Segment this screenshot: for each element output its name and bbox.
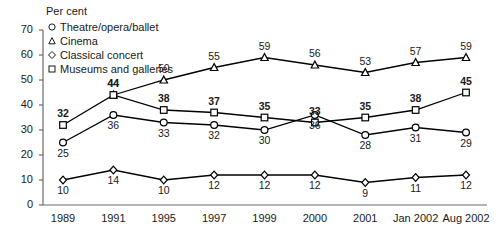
data-point-label: 36: [108, 119, 120, 131]
y-axis-tick-label: 20: [11, 148, 33, 160]
y-axis-tick-label: 60: [11, 48, 33, 60]
data-point-label: 25: [57, 147, 69, 159]
data-point-label: 12: [309, 179, 321, 191]
diamond-data-point: [311, 171, 318, 179]
diamond-data-point: [110, 166, 117, 174]
x-axis-tick-label: 2001: [353, 212, 377, 224]
plot-area: [0, 0, 498, 241]
square-data-point: [60, 122, 67, 129]
circle-data-point: [412, 124, 419, 131]
data-point-label: 12: [259, 179, 271, 191]
x-axis-tick-label: Aug 2002: [442, 212, 489, 224]
x-axis-tick-label: 2000: [303, 212, 327, 224]
y-axis-tick-label: 40: [11, 98, 33, 110]
x-axis-tick-label: 1991: [101, 212, 125, 224]
data-point-label: 45: [460, 75, 472, 87]
diamond-data-point: [261, 171, 268, 179]
data-point-label: 55: [208, 50, 220, 62]
y-axis-tick-label: 0: [11, 198, 33, 210]
data-point-label: 35: [259, 100, 271, 112]
circle-data-point: [160, 119, 167, 126]
data-point-label: 56: [309, 47, 321, 59]
y-axis-tick-label: 70: [11, 23, 33, 35]
data-point-label: 10: [57, 184, 69, 196]
square-data-point: [261, 114, 268, 121]
y-axis-tick-label: 30: [11, 123, 33, 135]
data-point-label: 10: [158, 184, 170, 196]
square-data-point: [211, 109, 218, 116]
data-point-label: 44: [108, 77, 120, 89]
data-point-label: 59: [460, 40, 472, 52]
y-axis-tick-label: 10: [11, 173, 33, 185]
data-point-label: 32: [208, 129, 220, 141]
data-point-label: 30: [259, 134, 271, 146]
data-point-label: 32: [57, 107, 69, 119]
data-point-label: 9: [362, 187, 368, 199]
data-point-label: 12: [460, 179, 472, 191]
triangle-data-point: [261, 54, 268, 61]
circle-data-point: [211, 122, 218, 129]
circle-data-point: [261, 127, 268, 134]
square-data-point: [160, 107, 167, 114]
diamond-data-point: [463, 171, 470, 179]
circle-data-point: [362, 132, 369, 139]
square-data-point: [412, 107, 419, 114]
data-point-label: 14: [108, 174, 120, 186]
circle-data-point: [463, 129, 470, 136]
data-point-label: 38: [410, 92, 422, 104]
data-point-label: 29: [460, 137, 472, 149]
data-point-label: 57: [410, 45, 422, 57]
data-point-label: 38: [158, 92, 170, 104]
data-point-label: 33: [309, 105, 321, 117]
y-axis-tick-label: 50: [11, 73, 33, 85]
data-point-label: 36: [309, 119, 321, 131]
square-data-point: [362, 114, 369, 121]
square-data-point: [110, 92, 117, 99]
data-point-label: 59: [259, 40, 271, 52]
data-point-label: 28: [359, 139, 371, 151]
diamond-data-point: [60, 176, 67, 184]
diamond-data-point: [362, 179, 369, 187]
data-point-label: 53: [359, 55, 371, 67]
triangle-data-point: [462, 54, 469, 61]
data-point-label: 50: [158, 62, 170, 74]
diamond-data-point: [211, 171, 218, 179]
data-point-label: 11: [410, 182, 421, 194]
circle-data-point: [110, 112, 117, 119]
data-point-label: 12: [208, 179, 220, 191]
data-point-label: 33: [158, 127, 170, 139]
x-axis-tick-label: 1989: [51, 212, 75, 224]
data-point-label: 35: [359, 100, 371, 112]
diamond-data-point: [160, 176, 167, 184]
data-point-label: 37: [208, 95, 220, 107]
x-axis-tick-label: 1995: [152, 212, 176, 224]
data-point-label: 31: [410, 132, 422, 144]
x-axis-tick-label: 1999: [252, 212, 276, 224]
x-axis-tick-label: 1997: [202, 212, 226, 224]
circle-data-point: [60, 139, 67, 146]
square-data-point: [463, 89, 470, 96]
x-axis-tick-label: Jan 2002: [393, 212, 438, 224]
chart-container: Per cent Theatre/opera/ballet Cinema Cla…: [0, 0, 498, 241]
diamond-data-point: [412, 174, 419, 182]
